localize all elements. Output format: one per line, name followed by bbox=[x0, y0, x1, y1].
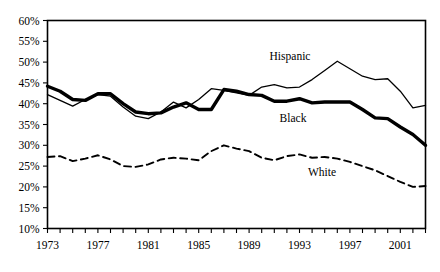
series-label-white: White bbox=[308, 166, 336, 178]
x-tick-label: 2001 bbox=[389, 239, 412, 251]
y-tick-label: 40% bbox=[18, 98, 40, 110]
x-tick-label: 1985 bbox=[187, 239, 210, 251]
y-tick-label: 55% bbox=[18, 35, 40, 47]
series-line-white bbox=[48, 145, 426, 187]
series-line-black bbox=[48, 86, 426, 145]
series-label-hispanic: Hispanic bbox=[270, 50, 311, 63]
y-tick-label: 25% bbox=[18, 160, 40, 172]
x-tick-label: 1993 bbox=[288, 239, 311, 251]
y-tick-label: 35% bbox=[18, 119, 40, 131]
y-axis-ticks: 60%55%50%45%40%35%30%25%20%15%10% bbox=[18, 15, 47, 235]
x-tick-label: 1973 bbox=[36, 239, 59, 251]
y-tick-label: 10% bbox=[18, 223, 40, 235]
y-tick-label: 30% bbox=[18, 139, 40, 151]
chart-container: 60%55%50%45%40%35%30%25%20%15%10% 197319… bbox=[0, 0, 440, 272]
plot-frame bbox=[48, 21, 426, 229]
plot-border bbox=[48, 21, 426, 229]
y-tick-label: 15% bbox=[18, 202, 40, 214]
series-label-black: Black bbox=[280, 112, 307, 124]
x-tick-label: 1977 bbox=[86, 239, 109, 251]
y-tick-label: 50% bbox=[18, 56, 40, 68]
y-tick-label: 60% bbox=[18, 15, 40, 27]
x-axis-ticks: 19731977198119851989199319972001 bbox=[36, 229, 426, 251]
series-lines bbox=[48, 61, 426, 187]
x-tick-label: 1997 bbox=[338, 239, 361, 251]
y-tick-label: 20% bbox=[18, 181, 40, 193]
y-tick-label: 45% bbox=[18, 77, 40, 89]
line-chart: 60%55%50%45%40%35%30%25%20%15%10% 197319… bbox=[0, 0, 440, 272]
x-tick-label: 1981 bbox=[137, 239, 160, 251]
x-tick-label: 1989 bbox=[238, 239, 261, 251]
